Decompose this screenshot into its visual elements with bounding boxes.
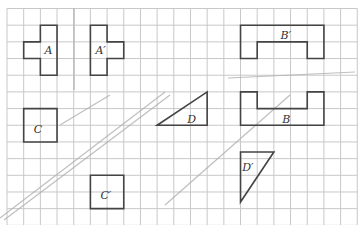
shape-label: D — [186, 113, 196, 126]
grid-diagram: AA′B′BCC′DD′ — [0, 0, 362, 225]
shape-label: C — [34, 123, 43, 136]
shape-label: B′ — [280, 29, 292, 42]
grid-lines — [7, 8, 357, 225]
grid-canvas: AA′B′BCC′DD′ — [0, 0, 362, 225]
shape-label: A — [44, 44, 53, 57]
shape-label: B — [281, 113, 290, 126]
pencil-marks — [0, 72, 355, 220]
shape-label: A′ — [94, 44, 106, 57]
shape-label: C′ — [100, 189, 111, 202]
shape-label: D′ — [241, 161, 254, 174]
